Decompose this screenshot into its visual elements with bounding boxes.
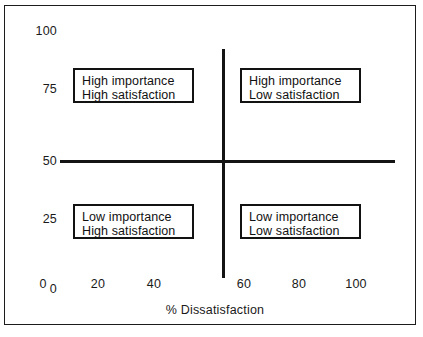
x-axis-title: % Dissatisfaction xyxy=(115,304,315,317)
quadrant-top-left-line1: High importance xyxy=(82,74,185,88)
horizontal-divider-line xyxy=(60,160,395,163)
quadrant-top-left-line2: High satisfaction xyxy=(82,88,185,102)
quadrant-top-right-line1: High importance xyxy=(249,74,352,88)
y-axis-tick-50: 50 xyxy=(11,155,57,168)
quadrant-top-right-line2: Low satisfaction xyxy=(249,88,352,102)
x-axis-tick-60: 60 xyxy=(224,278,264,291)
plot-frame: 100 75 50 25 0 0 20 40 60 80 100 High im… xyxy=(4,5,416,325)
y-axis-tick-75: 75 xyxy=(11,83,57,96)
y-axis-tick-25: 25 xyxy=(11,213,57,226)
quadrant-chart-figure: 100 75 50 25 0 0 20 40 60 80 100 High im… xyxy=(0,0,423,337)
x-axis-tick-20: 20 xyxy=(78,278,118,291)
quadrant-bottom-left-line2: High satisfaction xyxy=(82,224,185,238)
x-axis-tick-100: 100 xyxy=(336,278,376,291)
y-axis-tick-100: 100 xyxy=(11,25,57,38)
x-axis-tick-0: 0 xyxy=(23,278,63,291)
x-axis-tick-80: 80 xyxy=(279,278,319,291)
quadrant-label-bottom-left: Low importance High satisfaction xyxy=(73,204,194,239)
quadrant-bottom-left-line1: Low importance xyxy=(82,210,185,224)
quadrant-label-top-right: High importance Low satisfaction xyxy=(240,68,361,103)
x-axis-tick-40: 40 xyxy=(134,278,174,291)
quadrant-label-bottom-right: Low importance Low satisfaction xyxy=(240,204,361,239)
quadrant-bottom-right-line1: Low importance xyxy=(249,210,352,224)
vertical-divider-line xyxy=(222,49,225,278)
quadrant-label-top-left: High importance High satisfaction xyxy=(73,68,194,103)
quadrant-bottom-right-line2: Low satisfaction xyxy=(249,224,352,238)
